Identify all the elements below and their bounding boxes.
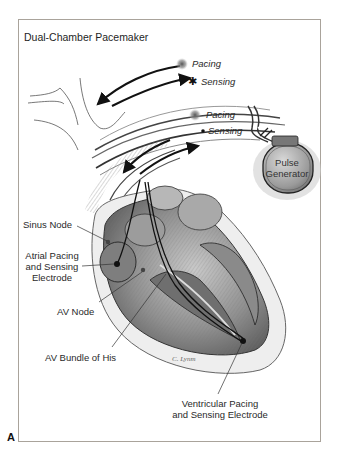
atrial-pacing-glow-icon [176,58,188,70]
ventricular-electrode-tip-icon [240,338,246,344]
ventricular-pacing-glow-icon [189,109,201,121]
atrial-sensing-label: Sensing [201,76,235,87]
pulse-generator-label: Pulse Generator [262,157,312,179]
vein-branches [28,78,125,150]
av-node-marker [141,268,145,272]
pacing-leads [248,106,274,142]
ventricular-pacing-label: Pacing [206,109,235,120]
av-node-label: AV Node [57,306,94,317]
pulse-generator-label-line1: Pulse [262,157,312,168]
atrial-electrode-label: Atrial Pacing and Sensing Electrode [22,250,82,283]
atrial-electrode-label-line1: Atrial Pacing [22,250,82,261]
ventricular-electrode-label: Ventricular Pacing and Sensing Electrode [165,398,275,420]
sinus-node-label: Sinus Node [23,219,72,230]
artist-signature: C. Lynm [172,355,196,363]
figure-title: Dual-Chamber Pacemaker [24,31,148,43]
atrial-electrode-label-line3: Electrode [22,272,82,283]
panel-letter: A [7,431,15,443]
ventricular-sensing-label: Sensing [208,125,242,136]
bundle-of-his-label: AV Bundle of His [45,352,116,363]
ventricular-electrode-label-line2: and Sensing Electrode [165,409,275,420]
atrial-pacing-label: Pacing [192,58,221,69]
heart [92,186,286,373]
legend-glyphs: ✱ [176,58,205,133]
ventricular-sensing-dot-icon [201,129,205,133]
pulse-generator-label-line2: Generator [262,168,312,179]
atrial-sensing-asterisk-icon: ✱ [188,75,197,88]
atrial-electrode-tip-icon [114,261,120,267]
ventricular-electrode-label-line1: Ventricular Pacing [165,398,275,409]
atrial-electrode-label-line2: and Sensing [22,261,82,272]
